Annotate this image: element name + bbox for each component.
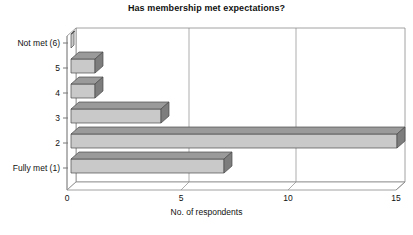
y-axis-label-4: 4 [0, 88, 60, 98]
y-axis-label-3: 3 [0, 113, 60, 123]
plot-area: Not met (6) 5 4 3 2 Fully met (1) 0 5 10… [0, 0, 413, 235]
x-axis-tick-10: 10 [273, 193, 303, 203]
bar-4 [71, 77, 103, 98]
chart-container: Has membership met expectations? [0, 0, 413, 235]
x-axis-title: No. of respondents [0, 207, 413, 217]
y-axis-label-fully-met-1: Fully met (1) [0, 163, 60, 173]
bar-3 [71, 102, 169, 123]
plot-floor [67, 182, 405, 190]
y-axis-label-2: 2 [0, 138, 60, 148]
x-axis-tick-0: 0 [52, 193, 82, 203]
bar-2 [71, 127, 405, 148]
y-axis-label-5: 5 [0, 63, 60, 73]
bar-fully-met-1 [71, 152, 232, 173]
y-axis-label-not-met-6: Not met (6) [0, 38, 60, 48]
bar-5 [71, 52, 103, 73]
x-axis-tick-15: 15 [381, 193, 411, 203]
x-axis-tick-5: 5 [166, 193, 196, 203]
